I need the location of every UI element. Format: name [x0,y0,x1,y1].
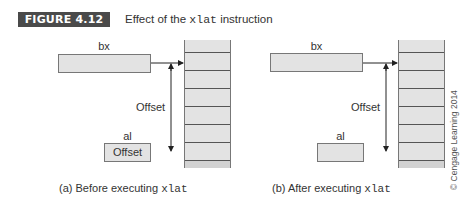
copyright-notice: © Cengage Learning 2014 [449,90,459,190]
arrows-layer [0,0,476,213]
